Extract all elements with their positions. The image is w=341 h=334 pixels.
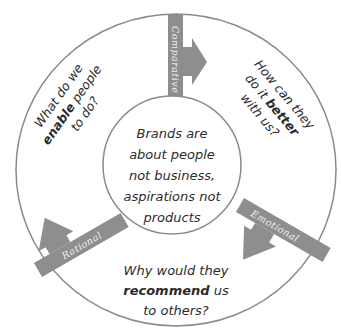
svg-text:to others?: to others? [143,303,209,318]
svg-text:Why would they: Why would they [124,263,229,278]
svg-text:about people: about people [129,147,215,162]
svg-text:Brands are: Brands are [137,126,208,141]
brand-diagram: Comparative Rational Emotional Brands ar… [0,0,341,334]
svg-text:aspirations not: aspirations not [123,189,221,204]
svg-text:recommend us: recommend us [123,283,229,298]
svg-text:products: products [142,210,200,225]
svg-text:not business,: not business, [129,168,215,183]
spoke-label-comparative: Comparative [170,26,181,93]
